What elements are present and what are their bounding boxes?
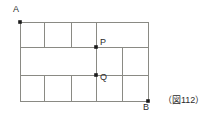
- vertex-dots: [18, 20, 150, 103]
- vertex-label-p: P: [100, 38, 106, 47]
- dot-P: [94, 45, 98, 49]
- dot-A: [18, 20, 22, 24]
- figure-container: A B P Q （図112）: [0, 0, 212, 120]
- vertex-label-a: A: [13, 5, 19, 14]
- figure-caption: （図112）: [163, 96, 204, 105]
- vertex-label-b: B: [143, 103, 149, 112]
- dot-Q: [94, 73, 98, 77]
- vertex-label-q: Q: [100, 73, 107, 82]
- grid-lines: [20, 22, 148, 101]
